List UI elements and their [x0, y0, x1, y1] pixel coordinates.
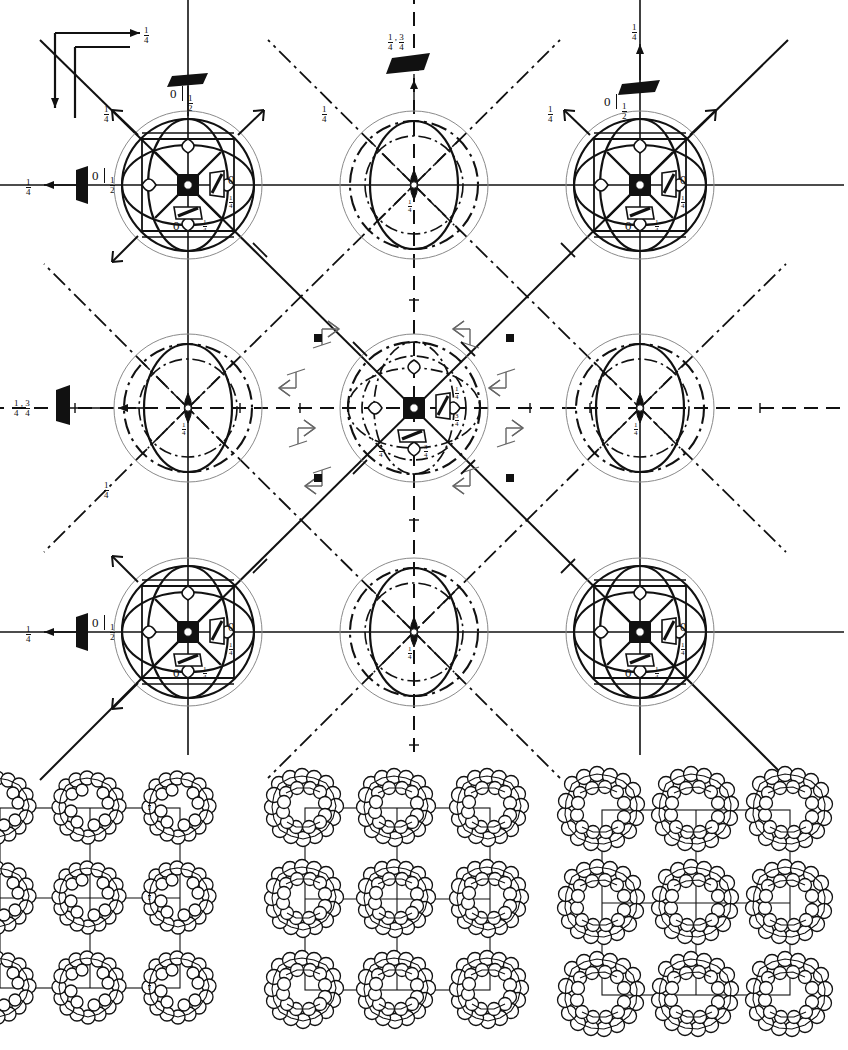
cell-edges [0, 0, 844, 755]
corner-label-br-bottom-fraction: 14 [655, 665, 659, 680]
arrow-label-ll: 14 [104, 480, 109, 499]
corner-label-tl-right-fraction: 14 [229, 194, 233, 209]
arrow-label-top-right: 14 [632, 22, 637, 41]
center-label-right-lower: 34 [455, 412, 459, 427]
glide-label-top-middle: 14 , 34 [388, 32, 404, 51]
glide-label-left-bottom: 0 12 [92, 615, 115, 641]
edge-label-bottom-middle: 14 [408, 645, 412, 660]
glide-label-top-right: 0 12 [604, 94, 627, 120]
symmetry-diagram-panel: 14 0 12 14 , 34 14 0 12 0 12 [0, 0, 834, 745]
axes-indicator [51, 29, 140, 118]
glide-symbol-left-bottom [44, 613, 88, 651]
mirror-midlines [0, 0, 844, 755]
packing-diagram-2-svg [262, 768, 562, 1050]
glide-label-left-middle: 14 , 34 [14, 398, 30, 417]
glide-symbol-left-middle [56, 385, 150, 425]
corner-label-tr-right-fraction: 14 [681, 194, 685, 209]
packing-diagram-3 [554, 768, 848, 1050]
glide-label-left-top: 0 12 [92, 168, 115, 194]
corner-label-bl-bottom-zero: 0 [173, 665, 180, 681]
axes-indicator-label: 14 [144, 25, 149, 44]
center-label-right-upper: 14 [455, 385, 459, 400]
packing-diagram-1-svg [0, 768, 260, 1050]
packing-diagram-3-svg [554, 768, 848, 1050]
corner-label-tr-bottom-fraction: 14 [655, 218, 659, 233]
corner-label-br-right-zero: 0 [680, 619, 687, 635]
glide-symbol-left-top [44, 166, 88, 204]
arrow-label-top-c: 14 [104, 104, 109, 123]
corner-label-bl-right-zero: 0 [228, 619, 235, 635]
packing-1-cell-label-bottom: 12 [148, 978, 151, 991]
corner-label-tl-bottom-fraction: 14 [203, 218, 207, 233]
packing-diagram-1: 12 12 12 [0, 768, 260, 1050]
arrow-label-ur: 14 [548, 104, 553, 123]
packing-1-cell-label-top: 12 [148, 798, 151, 811]
arrow-label-ul: 14 [322, 104, 327, 123]
edge-label-middle-right: 14 [634, 421, 638, 436]
edge-label-top-middle: 14 [408, 198, 412, 213]
corner-label-tl-right-zero: 0 [228, 172, 235, 188]
corner-label-tl-bottom-zero: 0 [173, 218, 180, 234]
glide-label-top-left: 0 12 [170, 86, 193, 112]
packing-1-cell-label-mid: 12 [148, 888, 151, 901]
corner-label-br-right-fraction: 14 [681, 641, 685, 656]
center-label-bottom-left: 14 [379, 443, 383, 458]
center-label-bottom-right: 34 [424, 443, 428, 458]
arrow-label-left-top: 14 [26, 177, 31, 196]
corner-label-tr-bottom-zero: 0 [625, 218, 632, 234]
corner-label-bl-bottom-fraction: 14 [203, 665, 207, 680]
corner-label-tr-right-zero: 0 [680, 172, 687, 188]
glide-symbol-top-right [618, 44, 660, 95]
arrow-label-left-bottom: 14 [26, 624, 31, 643]
symmetry-diagram-svg [0, 0, 834, 745]
corner-label-bl-right-fraction: 14 [229, 641, 233, 656]
glide-symbol-top-middle [386, 53, 430, 104]
cluster-grid [558, 767, 833, 1037]
edge-label-middle-left: 14 [182, 421, 186, 436]
cluster-grid [0, 771, 216, 1024]
packing-diagram-2 [262, 768, 562, 1050]
corner-label-br-bottom-zero: 0 [625, 665, 632, 681]
